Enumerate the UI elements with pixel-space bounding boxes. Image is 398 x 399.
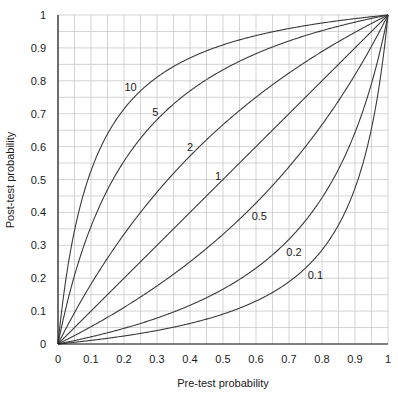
curve-label: 1: [215, 170, 221, 182]
y-tick-label: 0.2: [31, 272, 46, 284]
y-tick-labels: 00.10.20.30.40.50.60.70.80.91: [31, 9, 46, 350]
y-tick-label: 0.4: [31, 206, 46, 218]
curve-label: 10: [124, 81, 136, 93]
likelihood-ratio-chart: 105210.50.20.1 00.10.20.30.40.50.60.70.8…: [0, 0, 398, 399]
x-tick-labels: 00.10.20.30.40.50.60.70.80.91: [55, 353, 391, 365]
curve-label: 2: [187, 141, 193, 153]
x-tick-label: 0.4: [182, 353, 197, 365]
y-tick-label: 0.3: [31, 239, 46, 251]
y-tick-label: 0.8: [31, 75, 46, 87]
y-tick-label: 0.9: [31, 42, 46, 54]
curve-label: 5: [152, 106, 158, 118]
y-tick-label: 0.5: [31, 174, 46, 186]
curve-label: 0.5: [252, 210, 267, 222]
x-tick-label: 0.2: [116, 353, 131, 365]
x-tick-label: 0.5: [215, 353, 230, 365]
y-tick-label: 0.6: [31, 141, 46, 153]
y-tick-label: 0.1: [31, 305, 46, 317]
curve-label: 0.1: [308, 269, 323, 281]
x-tick-label: 0.8: [314, 353, 329, 365]
curve-labels: 105210.50.20.1: [124, 81, 323, 281]
x-tick-label: 0.6: [248, 353, 263, 365]
curve-label: 0.2: [286, 246, 301, 258]
x-tick-label: 0.9: [347, 353, 362, 365]
y-tick-label: 1: [40, 9, 46, 21]
x-tick-label: 0: [55, 353, 61, 365]
x-tick-label: 0.1: [83, 353, 98, 365]
y-axis-label: Post-test probability: [4, 131, 16, 228]
x-tick-label: 0.7: [281, 353, 296, 365]
y-tick-label: 0.7: [31, 108, 46, 120]
x-tick-label: 0.3: [149, 353, 164, 365]
y-tick-label: 0: [40, 338, 46, 350]
x-tick-label: 1: [385, 353, 391, 365]
x-axis-label: Pre-test probability: [177, 377, 269, 389]
